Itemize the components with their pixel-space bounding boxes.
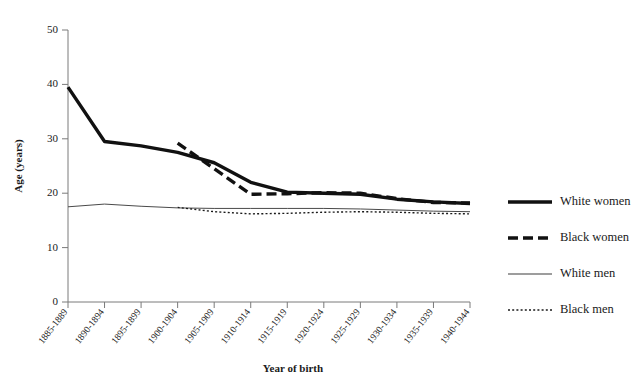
x-axis-ticks: 1885-18891890-18941895-18991900-19041905… <box>36 302 471 346</box>
legend-label: White women <box>560 194 631 208</box>
legend-label: White men <box>560 266 616 280</box>
legend-item-white-women[interactable]: White women <box>508 194 631 208</box>
x-tick-label: 1910-1914 <box>219 307 252 346</box>
series-line-white-women <box>68 87 470 203</box>
chart-legend: White womenBlack womenWhite menBlack men <box>508 194 631 316</box>
series-line-white-men <box>68 204 470 212</box>
x-tick-label: 1920-1924 <box>292 307 325 346</box>
chart-figure: 01020304050 1885-18891890-18941895-18991… <box>0 0 643 389</box>
y-tick-label: 40 <box>47 77 59 89</box>
data-series-group <box>68 87 470 214</box>
x-tick-label: 1905-1909 <box>183 307 216 346</box>
legend-label: Black women <box>560 230 630 244</box>
y-tick-label: 0 <box>53 295 59 307</box>
x-tick-label: 1885-1889 <box>36 307 69 346</box>
line-chart-canvas: 01020304050 1885-18891890-18941895-18991… <box>0 0 643 389</box>
legend-item-black-women[interactable]: Black women <box>508 230 630 244</box>
y-tick-label: 30 <box>47 132 59 144</box>
x-tick-label: 1900-1904 <box>146 307 179 346</box>
y-axis-title: Age (years) <box>12 139 25 193</box>
x-axis-title: Year of birth <box>263 362 323 374</box>
y-tick-label: 10 <box>47 241 59 253</box>
x-tick-label: 1935-1939 <box>402 307 435 346</box>
x-tick-label: 1895-1899 <box>109 307 142 346</box>
y-axis-ticks: 01020304050 <box>47 23 68 307</box>
legend-label: Black men <box>560 302 615 316</box>
x-tick-label: 1890-1894 <box>73 307 106 346</box>
legend-item-black-men[interactable]: Black men <box>508 302 615 316</box>
legend-item-white-men[interactable]: White men <box>508 266 616 280</box>
y-tick-label: 20 <box>47 186 59 198</box>
x-tick-label: 1940-1944 <box>438 307 471 346</box>
x-tick-label: 1915-1919 <box>256 307 289 346</box>
y-tick-label: 50 <box>47 23 59 35</box>
x-tick-label: 1930-1934 <box>365 307 398 346</box>
x-tick-label: 1925-1929 <box>329 307 362 346</box>
